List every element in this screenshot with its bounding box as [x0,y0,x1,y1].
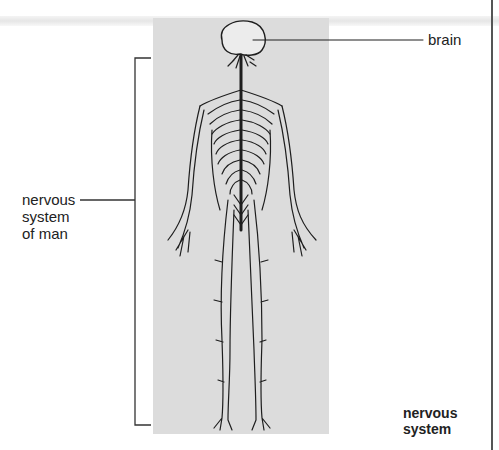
label-line: of man [22,225,75,242]
brain-icon [221,21,265,55]
figure-caption: nervous system [403,405,457,437]
left-leg-nerves [214,200,234,430]
label-nervous-system-of-man: nervous system of man [22,191,75,242]
label-brain: brain [428,31,461,48]
label-line: nervous [22,191,75,208]
left-arm-nerves [168,106,204,256]
right-leg-nerves [248,200,270,430]
label-line: system [22,208,75,225]
bracket [135,58,151,425]
caption-line: nervous [403,405,457,421]
right-arm-nerves [278,106,316,256]
caption-line: system [403,421,457,437]
